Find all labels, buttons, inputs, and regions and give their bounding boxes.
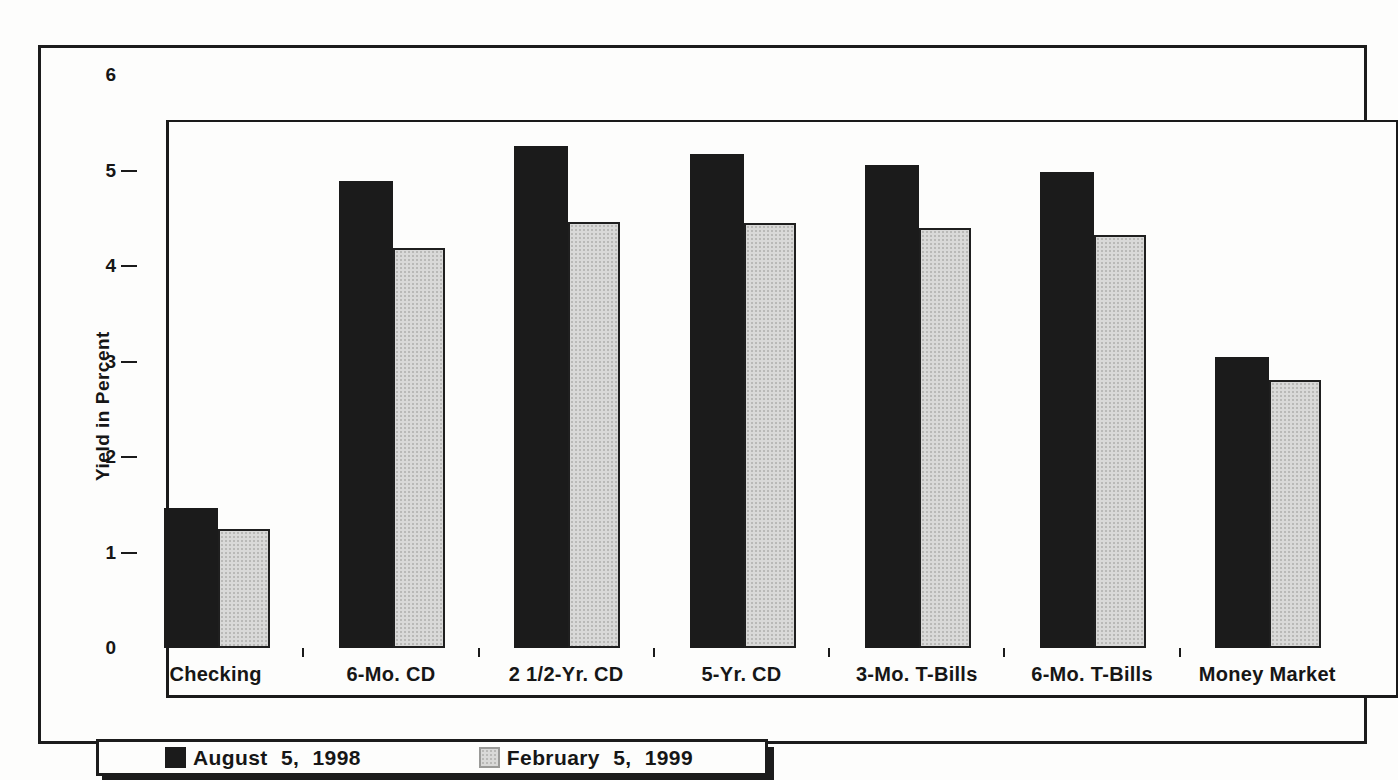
y-tick-label: 0 xyxy=(70,638,116,658)
legend-label: August 5, 1998 xyxy=(193,746,361,770)
y-tick-label: 6 xyxy=(70,65,116,85)
x-tick-mark xyxy=(653,648,655,657)
x-tick-mark xyxy=(828,648,830,657)
bar-feb-5 xyxy=(1094,235,1146,648)
bar-aug-6 xyxy=(1215,357,1269,648)
bar-aug-0 xyxy=(164,508,218,648)
x-category-label: 5-Yr. CD xyxy=(701,663,781,686)
y-tick-label: 5 xyxy=(70,161,116,181)
chart-outer-border: Yield in Percent 0123456 Checking6-Mo. C… xyxy=(38,45,1367,744)
x-category-label: Checking xyxy=(169,663,261,686)
bar-aug-5 xyxy=(1040,172,1094,648)
y-tick-mark xyxy=(121,456,137,458)
legend-item: August 5, 1998 xyxy=(165,746,361,770)
y-tick-mark xyxy=(121,170,137,172)
bar-aug-4 xyxy=(865,165,919,648)
y-tick-mark xyxy=(121,552,137,554)
bar-feb-6 xyxy=(1269,380,1321,648)
legend-swatch xyxy=(165,747,186,768)
x-category-label: 2 1/2-Yr. CD xyxy=(509,663,624,686)
y-tick-label: 2 xyxy=(70,447,116,467)
bar-feb-1 xyxy=(393,248,445,648)
x-category-label: 3-Mo. T-Bills xyxy=(856,663,978,686)
bar-feb-4 xyxy=(919,228,971,648)
bar-feb-0 xyxy=(218,529,270,648)
x-category-label: Money Market xyxy=(1199,663,1336,686)
bar-feb-3 xyxy=(744,223,796,648)
y-tick-label: 1 xyxy=(70,543,116,563)
legend-swatch xyxy=(479,747,500,768)
x-category-label: 6-Mo. T-Bills xyxy=(1031,663,1153,686)
legend-label: February 5, 1999 xyxy=(507,746,693,770)
bar-aug-2 xyxy=(514,146,568,648)
y-tick-label: 3 xyxy=(70,352,116,372)
scanned-yield-chart-page: Yield in Percent 0123456 Checking6-Mo. C… xyxy=(0,0,1398,780)
bar-feb-2 xyxy=(568,222,620,648)
x-tick-mark xyxy=(1003,648,1005,657)
bar-aug-3 xyxy=(690,154,744,648)
x-tick-mark xyxy=(302,648,304,657)
y-tick-mark xyxy=(121,265,137,267)
y-tick-label: 4 xyxy=(70,256,116,276)
x-tick-mark xyxy=(478,648,480,657)
legend-item: February 5, 1999 xyxy=(479,746,693,770)
bar-aug-1 xyxy=(339,181,393,648)
x-category-label: 6-Mo. CD xyxy=(346,663,435,686)
x-tick-mark xyxy=(1179,648,1181,657)
legend: August 5, 1998February 5, 1999 xyxy=(96,739,768,776)
y-tick-mark xyxy=(121,361,137,363)
